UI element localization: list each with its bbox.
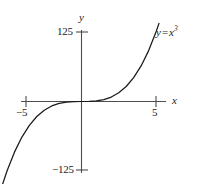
cubic-curve [2,23,159,184]
x-axis-tick-label-minus-5: −5 [16,107,27,118]
y-axis-tick-label-minus-125: −125 [52,164,74,175]
y-axis-name-label: y [79,12,84,23]
cubic-function-graph-figure: 125 −125 −5 5 y x y=x3 [0,0,201,184]
curve-equation-label: y=x3 [156,25,178,38]
x-axis-name-label: x [172,95,177,106]
x-axis-tick-label-5: 5 [152,107,157,118]
y-axis-tick-label-125: 125 [57,26,73,37]
equation-exponent: 3 [174,24,178,33]
equation-operator: = [161,26,169,38]
